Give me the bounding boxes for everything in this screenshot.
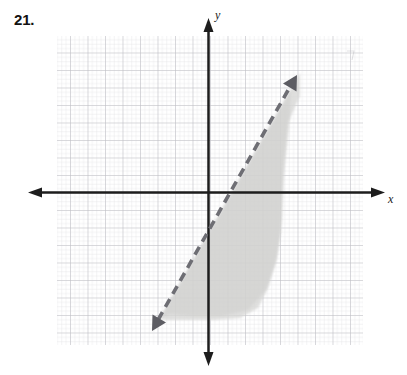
coordinate-plane-figure: y x [0,0,407,375]
x-axis-label: x [388,192,393,207]
y-axis-up-arrowhead [204,18,214,32]
coordinate-plane-svg [0,0,407,375]
x-axis-left-arrowhead [28,188,42,198]
y-axis-down-arrowhead [204,352,214,366]
y-axis-label: y [215,8,220,23]
x-axis-right-arrowhead [371,188,385,198]
